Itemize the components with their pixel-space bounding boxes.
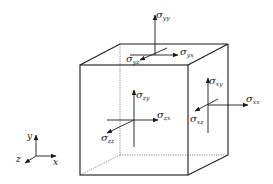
label-sigma-zx: σzx [157, 109, 171, 121]
label-sigma-zz: σzz [101, 132, 115, 144]
label-sigma-xz: σxz [190, 113, 204, 125]
cube [80, 44, 228, 175]
sigma-zz-arrow [107, 120, 134, 133]
front-face-stresses [107, 90, 158, 147]
label-sigma-zy: σzy [136, 89, 150, 102]
cube-hidden-edges [80, 44, 228, 175]
sigma-yz-arrow [140, 48, 167, 60]
label-z-axis: z [15, 154, 21, 164]
label-sigma-yx: σyx [180, 46, 194, 59]
label-x-axis: x [53, 157, 58, 167]
cube-top-face [80, 44, 228, 65]
label-sigma-xy: σxy [209, 75, 223, 88]
z-axis-arrow [25, 156, 36, 163]
label-sigma-yy: σyy [156, 9, 170, 22]
label-sigma-xx: σxx [246, 93, 260, 105]
stress-cube-diagram: σyy σyx σyz σzy σzx σzz σxy σxx σxz y x … [0, 0, 273, 184]
label-y-axis: y [26, 131, 33, 141]
top-face-stresses [130, 15, 178, 60]
